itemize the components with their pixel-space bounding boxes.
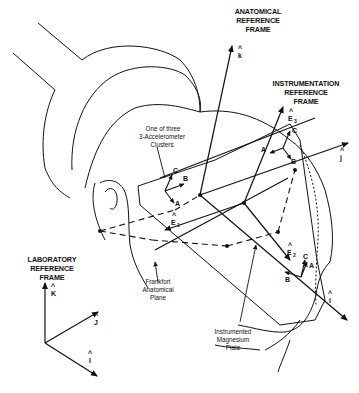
svg-text:3-Accelerometer: 3-Accelerometer <box>139 133 185 140</box>
svg-text:B: B <box>291 158 296 165</box>
svg-text:^: ^ <box>328 290 332 297</box>
svg-text:REFERENCE: REFERENCE <box>236 16 280 25</box>
svg-text:A: A <box>261 146 266 153</box>
svg-text:FRAME: FRAME <box>293 97 318 106</box>
plate-callout: Instrumented Magnesium Plate <box>215 328 252 351</box>
svg-text:Frankfort: Frankfort <box>145 278 170 285</box>
svg-text:B: B <box>285 276 290 283</box>
svg-text:FRAME: FRAME <box>245 25 270 34</box>
svg-text:^: ^ <box>340 147 344 154</box>
svg-text:^: ^ <box>51 283 55 290</box>
svg-text:One of three: One of three <box>145 125 181 132</box>
svg-text:^: ^ <box>289 108 293 115</box>
svg-text:E: E <box>171 219 176 226</box>
svg-text:1: 1 <box>177 222 180 228</box>
svg-text:INSTRUMENTATION: INSTRUMENTATION <box>273 79 340 88</box>
leader-lines <box>155 147 256 322</box>
laboratory-frame-title: LABORATORY REFERENCE FRAME <box>28 255 77 282</box>
instrumentation-frame-title: INSTRUMENTATION REFERENCE FRAME <box>273 79 340 106</box>
svg-text:E: E <box>288 115 293 122</box>
svg-text:REFERENCE: REFERENCE <box>30 264 74 273</box>
head-reference-frames-diagram: ANATOMICAL REFERENCE FRAME INSTRUMENTATI… <box>0 0 359 393</box>
frankfort-callout: Frankfort Anatomical Plane <box>142 278 173 301</box>
svg-text:I: I <box>89 357 91 364</box>
svg-text:A: A <box>309 262 314 269</box>
svg-text:^: ^ <box>172 212 176 219</box>
svg-text:Instrumented: Instrumented <box>215 328 252 335</box>
svg-text:j: j <box>339 154 342 162</box>
svg-text:FRAME: FRAME <box>39 273 64 282</box>
svg-text:3: 3 <box>294 118 297 124</box>
svg-text:2: 2 <box>293 252 296 258</box>
svg-text:^: ^ <box>288 242 292 249</box>
svg-text:A: A <box>175 200 180 207</box>
svg-text:C: C <box>292 127 297 134</box>
svg-text:k: k <box>238 52 242 59</box>
anatomical-frame-title: ANATOMICAL REFERENCE FRAME <box>235 7 282 34</box>
svg-text:Magnesium: Magnesium <box>217 336 250 344</box>
svg-text:LABORATORY: LABORATORY <box>28 255 77 264</box>
svg-text:^: ^ <box>94 312 98 319</box>
svg-text:C: C <box>173 167 178 174</box>
svg-text:Clusters: Clusters <box>150 141 173 148</box>
accelerometer-cluster-top <box>270 131 291 159</box>
head-outline <box>13 23 332 372</box>
svg-text:Plane: Plane <box>150 294 167 301</box>
svg-text:C: C <box>303 253 308 260</box>
cluster-point-labels: C B A C B A C A B <box>173 127 314 283</box>
svg-text:i: i <box>329 297 331 304</box>
svg-text:E: E <box>287 249 292 256</box>
svg-text:REFERENCE: REFERENCE <box>284 88 328 97</box>
svg-text:^: ^ <box>88 350 92 357</box>
svg-text:B: B <box>183 175 188 182</box>
cluster-callout: One of three 3-Accelerometer Clusters <box>139 125 185 148</box>
svg-text:J: J <box>94 319 98 326</box>
svg-text:Anatomical: Anatomical <box>142 286 173 293</box>
svg-text:^: ^ <box>238 45 242 52</box>
svg-text:Plate: Plate <box>226 344 241 351</box>
accelerometer-cluster-left <box>165 175 184 203</box>
svg-text:K: K <box>51 290 56 297</box>
accelerometer-cluster-bottom <box>285 260 307 277</box>
svg-text:ANATOMICAL: ANATOMICAL <box>235 7 282 16</box>
